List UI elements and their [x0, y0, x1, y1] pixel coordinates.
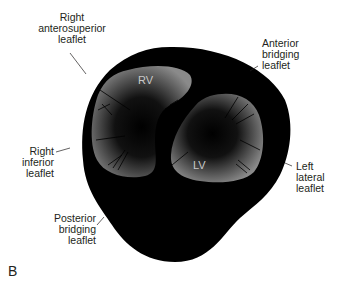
label-line: leaflet — [0, 168, 54, 179]
rv-label: RV — [138, 74, 153, 86]
label-line: leaflet — [262, 60, 332, 71]
label-anterior-bridging-leaflet: Anterior bridging leaflet — [262, 38, 332, 71]
label-right-anterosuperior-leaflet: Right anterosuperior leaflet — [22, 12, 122, 45]
lv-label: LV — [193, 159, 206, 171]
label-line: leaflet — [22, 34, 122, 45]
label-posterior-bridging-leaflet: Posterior bridging leaflet — [20, 213, 96, 246]
panel-letter: B — [8, 263, 17, 279]
label-right-inferior-leaflet: Right inferior leaflet — [0, 146, 54, 179]
label-left-lateral-leaflet: Left lateral leaflet — [296, 161, 342, 194]
label-line: leaflet — [296, 183, 342, 194]
label-line: leaflet — [20, 235, 96, 246]
